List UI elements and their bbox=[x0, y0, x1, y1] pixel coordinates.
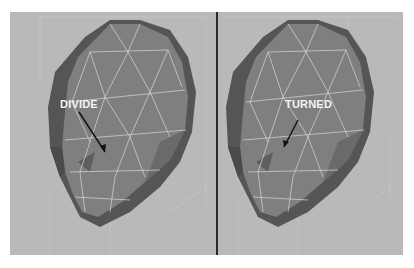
viewport-left[interactable]: DIVIDE bbox=[10, 12, 216, 255]
operation-label: TURNED bbox=[285, 98, 332, 110]
operation-label: DIVIDE bbox=[60, 98, 98, 110]
head-mesh-left bbox=[10, 12, 216, 255]
viewport-right[interactable]: TURNED bbox=[218, 12, 403, 255]
viewport-frame: DIVIDE bbox=[10, 12, 403, 255]
head-mesh-right bbox=[218, 12, 403, 255]
